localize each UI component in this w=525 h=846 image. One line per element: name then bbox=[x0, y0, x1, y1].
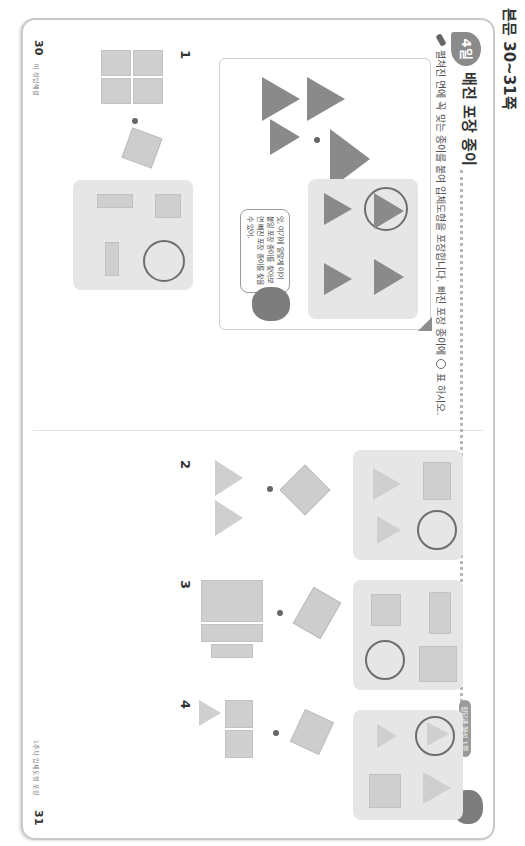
mascot-character bbox=[252, 287, 290, 321]
choice-rect[interactable] bbox=[371, 594, 401, 626]
choice-triangle[interactable] bbox=[427, 722, 449, 746]
arrow-icon bbox=[273, 730, 279, 736]
day-badge: 4일 bbox=[451, 32, 481, 66]
question-1-choices[interactable] bbox=[73, 180, 193, 290]
choice-triangle[interactable] bbox=[373, 468, 401, 500]
question-4-choices[interactable] bbox=[353, 710, 463, 820]
circle-mark-icon bbox=[437, 359, 447, 369]
net-rect bbox=[101, 78, 131, 104]
net-rect bbox=[101, 50, 131, 76]
question-number-2: 2 bbox=[178, 460, 193, 469]
net-triangle bbox=[199, 700, 221, 726]
folded-corner-icon bbox=[418, 317, 432, 331]
net-rect bbox=[133, 78, 163, 104]
instruction-suffix: 표 하시오. bbox=[434, 373, 449, 415]
cuboid-shape bbox=[293, 587, 342, 639]
instruction-text: 펼쳐진 면에 꼭 맞는 종이를 붙여 입체도형을 포장합니다. 빠진 포장 종이… bbox=[434, 50, 449, 355]
net-triangle bbox=[215, 500, 243, 536]
net-rect bbox=[201, 624, 263, 642]
choice-rect[interactable] bbox=[369, 774, 401, 808]
arrow-icon bbox=[132, 118, 138, 124]
net-rect bbox=[225, 700, 253, 728]
example-answer-panel bbox=[308, 179, 418, 319]
net-rect bbox=[211, 644, 253, 658]
question-3-choices[interactable] bbox=[353, 580, 463, 690]
answer-circle bbox=[417, 510, 457, 550]
pyramid-shape bbox=[280, 465, 331, 516]
page-divider bbox=[33, 430, 483, 431]
choice-rect[interactable] bbox=[419, 646, 457, 682]
net-rect bbox=[225, 730, 253, 758]
triangle-choice bbox=[374, 259, 404, 295]
question-number-3: 3 bbox=[178, 580, 193, 589]
choice-triangle[interactable] bbox=[377, 724, 397, 748]
question-2-choices[interactable] bbox=[353, 450, 463, 560]
choice-square[interactable] bbox=[155, 194, 181, 218]
instruction: 펼쳐진 면에 꼭 맞는 종이를 붙여 입체도형을 포장합니다. 빠진 포장 종이… bbox=[434, 34, 449, 415]
page-caption-left: 미 정답해설 bbox=[32, 64, 41, 96]
page-number-left: 30 bbox=[32, 40, 45, 55]
triangle-choice bbox=[324, 193, 352, 225]
answer-circle bbox=[143, 240, 185, 282]
choice-rect[interactable] bbox=[423, 462, 451, 500]
triangle-choice bbox=[374, 193, 404, 229]
choice-rect[interactable] bbox=[97, 194, 133, 208]
rotated-page-spread: 본문 30~31쪽 4일 배진 포장 종이 펼쳐진 면에 꼭 맞는 종이를 붙여… bbox=[0, 0, 525, 846]
page-number-right: 31 bbox=[32, 810, 45, 825]
question-number-1: 1 bbox=[178, 50, 193, 59]
net-triangle bbox=[307, 77, 345, 121]
page-caption-right: 1주차 입체도형 포장 bbox=[32, 740, 41, 796]
example-card: 앗, 여기에 알맞게 이어 붙일 포장 종이를 찾아보면 빠진 포장 종이를 찾… bbox=[219, 58, 431, 330]
net-rect bbox=[133, 50, 163, 76]
arrow-icon bbox=[314, 137, 320, 143]
net-triangle bbox=[215, 460, 243, 496]
choice-rect[interactable] bbox=[105, 242, 119, 276]
cube-shape bbox=[121, 127, 162, 168]
net-triangle bbox=[270, 119, 300, 155]
choice-triangle[interactable] bbox=[423, 772, 451, 804]
lesson-title: 배진 포장 종이 bbox=[460, 72, 481, 166]
book-spread: 4일 배진 포장 종이 펼쳐진 면에 꼭 맞는 종이를 붙여 입체도형을 포장합… bbox=[21, 18, 495, 840]
speech-bubble: 앗, 여기에 알맞게 이어 붙일 포장 종이를 찾아보면 빠진 포장 종이를 찾… bbox=[240, 209, 290, 293]
pencil-icon bbox=[436, 33, 447, 46]
question-number-4: 4 bbox=[178, 700, 193, 709]
choice-rect[interactable] bbox=[429, 592, 451, 634]
choice-triangle[interactable] bbox=[377, 516, 401, 544]
prism-shape bbox=[290, 709, 334, 755]
net-rect bbox=[201, 580, 263, 622]
arrow-icon bbox=[277, 610, 283, 616]
answer-circle bbox=[365, 640, 405, 680]
triangle-choice bbox=[324, 263, 352, 295]
net-triangle bbox=[262, 77, 300, 121]
page-reference-label: 본문 30~31쪽 bbox=[500, 8, 521, 110]
arrow-icon bbox=[267, 486, 273, 492]
